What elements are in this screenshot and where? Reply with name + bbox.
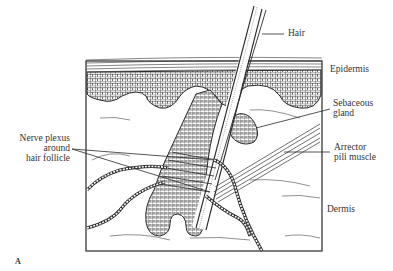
label-nerve-line2: around [10, 143, 70, 153]
label-arrector-pili: Arrector pili muscle [334, 142, 376, 162]
label-arrector-line1: Arrector [334, 142, 376, 152]
label-hair: Hair [288, 28, 305, 38]
label-nerve-line3: hair follicle [10, 153, 70, 163]
panel-label: A [15, 257, 21, 266]
label-epidermis: Epidermis [330, 64, 369, 74]
label-sebaceous-gland: Sebaceous gland [333, 98, 373, 118]
label-arrector-line2: pili muscle [334, 152, 376, 162]
label-nerve-plexus: Nerve plexus around hair follicle [10, 133, 70, 163]
label-dermis: Dermis [327, 204, 355, 214]
label-sebaceous-line1: Sebaceous [333, 98, 373, 108]
label-sebaceous-line2: gland [333, 108, 373, 118]
label-nerve-line1: Nerve plexus [10, 133, 70, 143]
